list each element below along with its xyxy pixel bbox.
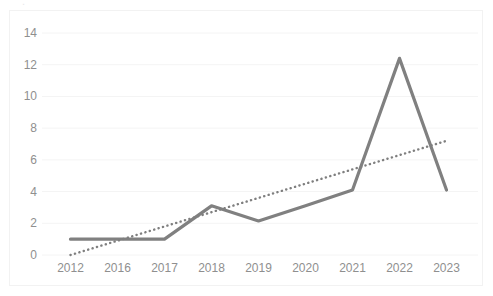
series-group: [71, 58, 447, 255]
x-axis-tick-label: 2022: [374, 262, 426, 274]
x-axis-tick-label: 2018: [186, 262, 238, 274]
y-axis-tick-label: 10: [3, 90, 37, 102]
y-axis-tick-label: 0: [3, 249, 37, 261]
plot-area: 02468101214 2012201620172018201920202021…: [0, 0, 493, 296]
chart-svg: [0, 0, 493, 296]
x-axis-tick-label: 2017: [139, 262, 191, 274]
x-axis-tick-label: 2020: [280, 262, 332, 274]
x-axis-tick-label: 2021: [327, 262, 379, 274]
y-axis-tick-label: 14: [3, 27, 37, 39]
x-axis-tick-label: 2019: [233, 262, 285, 274]
y-axis-tick-label: 12: [3, 59, 37, 71]
chart-container: . 02468101214 20122016201720182019202020…: [0, 0, 493, 296]
x-axis-tick-label: 2023: [421, 262, 473, 274]
y-axis-tick-label: 2: [3, 217, 37, 229]
y-axis-tick-label: 6: [3, 154, 37, 166]
trendline-path: [71, 141, 447, 255]
y-axis-tick-label: 4: [3, 186, 37, 198]
x-axis-tick-label: 2012: [45, 262, 97, 274]
x-axis-tick-label: 2016: [92, 262, 144, 274]
data-series-path: [71, 58, 447, 239]
y-axis-tick-label: 8: [3, 122, 37, 134]
